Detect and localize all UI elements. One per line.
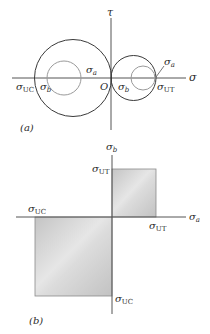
- sigma-a-leader-line: [156, 66, 164, 77]
- sigma-uc-y-label: σUC: [115, 293, 133, 306]
- sigma-ut-label: σUT: [157, 81, 175, 94]
- panel-b-caption: (b): [29, 315, 43, 326]
- panel-b-failure-envelope: σb σa σUT σUT σUC σUC (b): [16, 141, 200, 326]
- compression-region: [35, 217, 112, 296]
- sigma-ut-x-label: σUT: [149, 220, 167, 233]
- sigma-b-left-label: σb: [40, 81, 52, 94]
- sigma-uc-x-label: σUC: [28, 203, 46, 216]
- failure-criteria-figure: τ σ O σUC σb σa σb σUT σa (a) σb σa σUT …: [0, 0, 210, 334]
- tension-region: [112, 169, 156, 217]
- sigma-uc-label: σUC: [16, 81, 34, 94]
- sigma-b-right-label: σb: [118, 81, 130, 94]
- tau-label: τ: [107, 6, 114, 19]
- sigma-ut-y-label: σUT: [92, 163, 110, 176]
- panel-a-caption: (a): [20, 122, 34, 133]
- sigma-a-right-label: σa: [164, 56, 175, 69]
- sigma-label: σ: [189, 71, 197, 84]
- sigma-a-axis-label: σa: [189, 211, 200, 224]
- origin-label: O: [100, 81, 108, 92]
- sigma-b-axis-label: σb: [106, 141, 118, 154]
- sigma-a-left-label: σa: [86, 64, 97, 77]
- panel-a-mohr-circles: τ σ O σUC σb σa σb σUT σa (a): [12, 6, 197, 133]
